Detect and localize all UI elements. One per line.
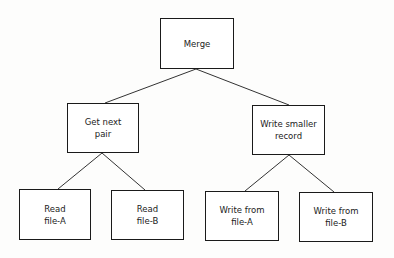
node-write-from-file-a: Write from file-A	[205, 191, 279, 241]
hierarchy-diagram: Merge Get next pair Write smaller record…	[0, 0, 394, 258]
node-label: Read file-A	[44, 203, 66, 227]
edge-merge-to-write-smaller-record	[196, 69, 289, 105]
node-read-file-a: Read file-A	[19, 189, 91, 240]
node-label: Merge	[184, 38, 211, 50]
node-write-smaller-record: Write smaller record	[252, 105, 325, 155]
node-merge: Merge	[160, 18, 234, 69]
node-label: Write from file-B	[314, 205, 359, 229]
edge-write-smaller-record-to-write-from-file-b	[289, 155, 334, 192]
node-label: Write smaller record	[260, 118, 317, 142]
edge-merge-to-get-next-pair	[105, 69, 196, 103]
edge-write-smaller-record-to-write-from-file-a	[245, 155, 289, 191]
node-get-next-pair: Get next pair	[67, 103, 139, 153]
edge-get-next-pair-to-read-file-b	[102, 153, 145, 190]
edge-get-next-pair-to-read-file-a	[58, 153, 102, 189]
node-label: Read file-B	[137, 203, 159, 227]
node-label: Write from file-A	[220, 204, 265, 228]
node-write-from-file-b: Write from file-B	[299, 192, 373, 242]
node-label: Get next pair	[85, 116, 122, 140]
node-read-file-b: Read file-B	[111, 190, 184, 240]
